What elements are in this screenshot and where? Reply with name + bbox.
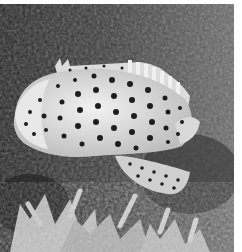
fish-scene-graphic (0, 4, 234, 252)
photo (0, 4, 234, 252)
